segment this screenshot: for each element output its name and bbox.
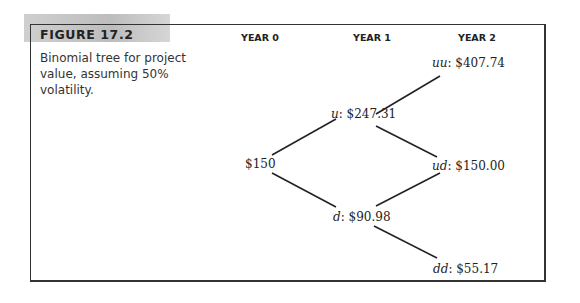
edge-root-u xyxy=(272,119,336,155)
tree-edges xyxy=(0,0,580,303)
edge-d-ud xyxy=(376,173,440,206)
node-dd: dd: $55.17 xyxy=(433,262,498,276)
node-u: u: $247.31 xyxy=(331,107,396,121)
edge-root-d xyxy=(272,173,336,207)
edge-u-ud xyxy=(376,126,437,157)
node-uu: uu: $407.74 xyxy=(432,56,505,70)
node-root: $150 xyxy=(245,157,276,171)
node-ud: ud: $150.00 xyxy=(432,159,505,173)
edge-d-dd xyxy=(374,226,437,258)
node-d: d: $90.98 xyxy=(333,210,391,224)
